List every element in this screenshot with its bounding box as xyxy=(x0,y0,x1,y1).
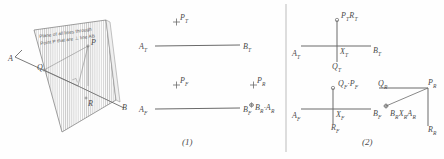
label-p-aux-view-2: PR xyxy=(428,79,437,89)
panel-one-artwork xyxy=(155,19,257,110)
point-label-Q: Q xyxy=(37,64,43,72)
label-qp-front-view-2: QF·PF xyxy=(338,80,358,90)
label-p-aux-view: PR xyxy=(257,77,266,87)
label-q-aux-view-2: QR xyxy=(378,80,388,90)
point-label-B: B xyxy=(122,104,127,112)
label-b-top-view-2: BT xyxy=(373,47,381,57)
point-label-A: A xyxy=(8,55,13,63)
label-p-top-view: PT xyxy=(180,14,188,24)
label-bxa-aux-view-2: BRXRAR xyxy=(390,110,416,120)
label-b-front-view: BF xyxy=(243,106,252,116)
label-a-front-view: AF xyxy=(139,106,148,116)
label-a-front-view-2: AF xyxy=(292,112,301,122)
label-b-front-view-2: BF xyxy=(373,110,382,120)
label-x-top-view-2: XT xyxy=(340,48,348,58)
label-q-top-view-2: QT xyxy=(332,63,341,73)
point-label-R: R xyxy=(88,100,93,108)
caption-panel-two: (2) xyxy=(362,137,373,147)
label-r-front-view-2: RF xyxy=(331,124,340,134)
descriptive-geometry-figure: Plane of all lines through Point P that … xyxy=(0,0,444,159)
label-b-top-view: BT xyxy=(243,43,251,53)
label-ba-aux-view: BR·AR xyxy=(255,104,275,114)
label-a-top-view: AT xyxy=(139,43,147,53)
label-pr-top-view-2: PTRT xyxy=(341,12,358,22)
point-label-P: P xyxy=(91,39,96,47)
label-r-aux-view-2: RR xyxy=(428,126,437,136)
label-a-top-view-2: AT xyxy=(292,50,300,60)
label-p-front-view: PF xyxy=(180,77,189,87)
label-x-front-view-2: XF xyxy=(336,111,345,121)
caption-panel-one: (1) xyxy=(182,137,193,147)
